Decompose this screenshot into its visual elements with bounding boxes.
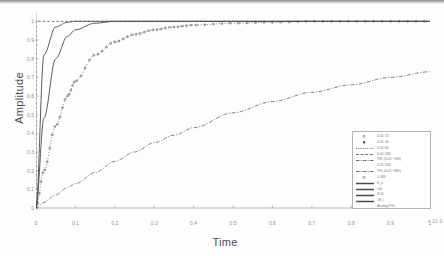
legend-item[interactable]: 0.01.530 [355, 163, 429, 169]
x-tick-label: 0.1 [72, 220, 79, 226]
data-marker [76, 80, 78, 82]
x-tick-label: 0.6 [269, 220, 276, 226]
y-tick-label: 0.2 [27, 168, 34, 174]
legend-item[interactable]: 0.01.40 [355, 140, 429, 146]
x-tick-label: 0.5 [230, 220, 237, 226]
y-tick-label: 0.9 [27, 37, 34, 43]
legend-rows: 0.01.730.01.400.01.800.01.180PID (0.01~1… [355, 134, 429, 210]
x-tick-label: 0.3 [151, 220, 158, 226]
legend-sample [355, 134, 375, 139]
x-tick-label: 0.2 [111, 220, 118, 226]
data-marker [59, 116, 61, 118]
legend-sample [355, 146, 375, 151]
legend-item[interactable]: Gd [355, 187, 429, 193]
x-tick-label: 0.8 [348, 220, 355, 226]
x-axis-label: Time [170, 236, 280, 248]
legend-item[interactable]: 0.01.80 [355, 146, 429, 152]
legend-label: Gd [377, 187, 382, 193]
legend-label: PID (0.01~380) [377, 169, 401, 175]
data-marker [84, 67, 86, 69]
legend-sample [355, 193, 375, 198]
y-tick-label: 0.7 [27, 74, 34, 80]
legend-label: 0.01.180 [377, 152, 391, 158]
legend-item[interactable]: JN_i [355, 198, 429, 204]
legend-marker [363, 141, 365, 143]
legend-label: 1.089 [377, 175, 386, 181]
legend-marker [363, 136, 365, 138]
step-response-figure: Amplitude Time 00.10.20.30.40.50.60.70.8… [0, 4, 444, 256]
legend-label: Analog PID [377, 204, 395, 210]
legend-label: JN_i [377, 198, 384, 204]
legend-label: 0.01.530 [377, 163, 391, 169]
legend-item[interactable]: K_p [355, 181, 429, 187]
y-tick-label: 0.5 [27, 112, 34, 118]
legend-item[interactable]: Analog PID [355, 204, 429, 210]
legend-item[interactable]: 0.01.180 [355, 152, 429, 158]
data-marker [70, 89, 72, 91]
y-tick-label: 0.8 [27, 56, 34, 62]
legend-item[interactable]: 1.089 [355, 175, 429, 181]
legend-sample [355, 199, 375, 204]
x-tick-labels: 00.10.20.30.40.50.60.70.80.91 [36, 220, 430, 230]
data-marker [73, 81, 75, 83]
legend-label: 0.01.73 [377, 134, 389, 140]
legend-label: K_p [377, 181, 383, 187]
x-tick-label: 0.9 [387, 220, 394, 226]
y-tick-label: 0.3 [27, 149, 34, 155]
y-tick-label: 0.1 [27, 186, 34, 192]
legend-sample [355, 187, 375, 192]
legend-sample [355, 140, 375, 145]
y-tick-label: 0.6 [27, 93, 34, 99]
legend-label: 0.01.40 [377, 140, 389, 146]
data-marker [160, 28, 162, 30]
legend-sample [355, 158, 375, 163]
legend-sample [355, 164, 375, 169]
data-marker [238, 22, 240, 24]
legend-item[interactable]: PID (0.01~380) [355, 169, 429, 175]
data-marker [80, 75, 82, 77]
x-tick-label: 0 [35, 220, 38, 226]
data-marker [49, 147, 51, 149]
legend-label: 0.01.80 [377, 146, 389, 152]
data-marker [169, 26, 171, 28]
legend-item[interactable]: PID (0.01~180) [355, 157, 429, 163]
y-tick-labels: 00.10.20.30.40.50.60.70.80.91 [0, 12, 34, 218]
y-tick-label: 1 [31, 18, 34, 24]
legend-label: PID (0.01~180) [377, 157, 401, 163]
legend-sample [355, 175, 375, 180]
x-tick-label: 0.7 [308, 220, 315, 226]
figure-page: Amplitude Time 00.10.20.30.40.50.60.70.8… [0, 0, 444, 256]
data-marker [89, 59, 91, 61]
x-axis-exponent: × 10-3 [428, 218, 442, 224]
legend-item[interactable]: 0.01.73 [355, 134, 429, 140]
x-tick-label: 0.4 [190, 220, 197, 226]
data-marker [131, 34, 133, 36]
legend-marker [363, 177, 365, 179]
legend-sample [355, 181, 375, 186]
legend-sample [355, 204, 375, 209]
y-tick-label: 0 [31, 205, 34, 211]
y-tick-label: 0.4 [27, 130, 34, 136]
legend-sample [355, 152, 375, 157]
legend-label: KCD [377, 192, 384, 198]
legend-box: 0.01.730.01.400.01.800.01.180PID (0.01~1… [352, 131, 431, 209]
legend-item[interactable]: KCD [355, 192, 429, 198]
legend-sample [355, 169, 375, 174]
data-marker [190, 24, 192, 26]
